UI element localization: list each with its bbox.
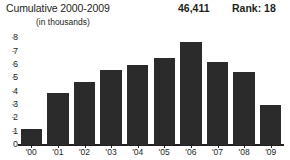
- y-axis-tick: 6: [0, 59, 18, 70]
- y-axis-tick: 7: [0, 46, 18, 57]
- bar: [180, 42, 201, 145]
- y-axis-tick-dash: [12, 91, 17, 92]
- bar: [154, 58, 175, 145]
- bar: [21, 129, 42, 145]
- bar: [127, 65, 148, 145]
- y-axis-tick-dash: [12, 64, 17, 65]
- x-axis-tick-label: '06: [178, 147, 205, 157]
- x-axis-tick-label: '01: [45, 147, 72, 157]
- x-axis-tick-label: '02: [71, 147, 98, 157]
- bar: [74, 82, 95, 145]
- x-axis-tick-label: '00: [18, 147, 45, 157]
- y-axis-tick-dash: [12, 117, 17, 118]
- y-axis-tick: 8: [0, 32, 18, 43]
- x-axis-tick-label: '07: [204, 147, 231, 157]
- x-axis-tick-label: '09: [257, 147, 284, 157]
- x-axis-tick-label: '03: [98, 147, 125, 157]
- y-axis-tick-dash: [12, 77, 17, 78]
- x-axis-tick-label: '08: [231, 147, 258, 157]
- y-axis-tick-label: 0: [8, 139, 18, 150]
- y-axis-tick-dash: [12, 104, 17, 105]
- bar: [260, 105, 281, 145]
- bar: [233, 72, 254, 145]
- y-axis-tick-dash: [12, 51, 17, 52]
- y-axis-tick: 4: [0, 86, 18, 97]
- y-axis-tick-dash: [12, 37, 17, 38]
- bar: [100, 70, 121, 145]
- y-axis-tick-dash: [12, 131, 17, 132]
- y-axis-tick: 0: [0, 139, 18, 150]
- y-axis-tick: 3: [0, 99, 18, 110]
- y-axis-tick: 5: [0, 72, 18, 83]
- y-axis-tick: 1: [0, 126, 18, 137]
- x-axis-tick-label: '04: [124, 147, 151, 157]
- bar: [207, 62, 228, 145]
- y-axis-tick: 2: [0, 112, 18, 123]
- x-axis-tick-label: '05: [151, 147, 178, 157]
- bar: [47, 93, 68, 145]
- bar-chart-plot: 012345678 '00'01'02'03'04'05'06'07'08'09: [0, 0, 290, 160]
- chart-panel: Cumulative 2000-2009 46,411 Rank: 18 (in…: [0, 0, 290, 160]
